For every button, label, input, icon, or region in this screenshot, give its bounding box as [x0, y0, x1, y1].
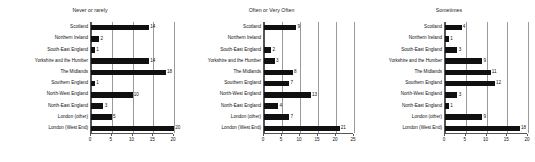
category-label: London (other) [58, 115, 88, 120]
category-label: North-West England [401, 92, 442, 97]
x-tick-mark [132, 134, 133, 136]
x-tick-label: 0 [89, 137, 92, 142]
chart-row: Southern England [0, 78, 180, 89]
category-label: Yorkshire and the Humber [35, 59, 88, 64]
category-label: North-West England [47, 92, 88, 97]
category-label: North-East England [402, 104, 442, 109]
x-tick-label: 20 [170, 137, 175, 142]
x-tick-label: 20 [332, 137, 337, 142]
x-tick-label: 10 [483, 137, 488, 142]
chart-row: London (other) [180, 112, 363, 123]
category-label: Scotland [70, 25, 88, 30]
category-label: London (West End) [49, 126, 89, 131]
chart-row: London (West End) [363, 123, 535, 134]
x-tick-label: 10 [129, 137, 134, 142]
category-label: Northern Ireland [228, 36, 261, 41]
plot-region: 142114181103520ScotlandNorthern IrelandS… [0, 0, 180, 162]
category-label: Southern England [405, 81, 442, 86]
category-label: North-East England [48, 104, 88, 109]
x-tick-label: 5 [109, 137, 112, 142]
x-tick-mark [353, 134, 354, 136]
chart-figure: Never or rarely 142114181103520ScotlandN… [0, 0, 535, 162]
x-tick-label: 10 [296, 137, 301, 142]
category-label: The Midlands [233, 70, 261, 75]
x-tick-mark [173, 134, 174, 136]
category-label: South-East England [401, 48, 442, 53]
chart-row: Scotland [0, 22, 180, 33]
category-axis: ScotlandNorthern IrelandSouth-East Engla… [180, 22, 363, 134]
category-label: London (West End) [403, 126, 443, 131]
x-tick-label: 0 [262, 137, 265, 142]
chart-row: Northern Ireland [363, 33, 535, 44]
category-label: Southern England [51, 81, 88, 86]
x-tick-mark [263, 134, 264, 136]
category-label: South-East England [47, 48, 88, 53]
chart-panel-never-or-rarely: Never or rarely 142114181103520ScotlandN… [0, 0, 180, 162]
chart-panel-often-or-very-often: Often or Very Often 92387134721ScotlandN… [180, 0, 363, 162]
category-label: Northern Ireland [55, 36, 88, 41]
x-tick-mark [527, 134, 528, 136]
x-tick-mark [152, 134, 153, 136]
chart-row: The Midlands [180, 67, 363, 78]
chart-row: London (other) [0, 112, 180, 123]
chart-row: London (West End) [0, 123, 180, 134]
chart-row: North-West England [180, 89, 363, 100]
category-label: The Midlands [60, 70, 88, 75]
chart-row: Yorkshire and the Humber [180, 56, 363, 67]
category-label: South-East England [220, 48, 261, 53]
x-tick-mark [317, 134, 318, 136]
x-tick-label: 15 [314, 137, 319, 142]
x-tick-mark [111, 134, 112, 136]
category-label: Scotland [243, 25, 261, 30]
category-label: Yorkshire and the Humber [389, 59, 442, 64]
category-label: London (other) [231, 115, 261, 120]
chart-row: Scotland [180, 22, 363, 33]
chart-row: North-East England [363, 100, 535, 111]
x-tick-label: 5 [280, 137, 283, 142]
chart-row: Southern England [363, 78, 535, 89]
x-tick-label: 15 [504, 137, 509, 142]
chart-row: Southern England [180, 78, 363, 89]
category-label: London (West End) [222, 126, 262, 131]
chart-row: Scotland [363, 22, 535, 33]
x-tick-label: 15 [150, 137, 155, 142]
category-label: Southern England [224, 81, 261, 86]
chart-row: North-West England [0, 89, 180, 100]
chart-row: The Midlands [0, 67, 180, 78]
plot-region: 92387134721ScotlandNorthern IrelandSouth… [180, 0, 363, 162]
x-tick-label: 25 [350, 137, 355, 142]
category-label: North-East England [221, 104, 261, 109]
chart-row: Yorkshire and the Humber [363, 56, 535, 67]
chart-row: South-East England [180, 44, 363, 55]
x-tick-mark [444, 134, 445, 136]
plot-region: 4139111231918ScotlandNorthern IrelandSou… [363, 0, 535, 162]
chart-panel-sometimes: Sometimes 4139111231918ScotlandNorthern … [363, 0, 535, 162]
x-tick-mark [506, 134, 507, 136]
category-label: Northern Ireland [409, 36, 442, 41]
category-label: Scotland [424, 25, 442, 30]
x-tick-label: 20 [524, 137, 529, 142]
category-label: North-West England [220, 92, 261, 97]
chart-row: London (West End) [180, 123, 363, 134]
chart-row: South-East England [0, 44, 180, 55]
x-tick-mark [299, 134, 300, 136]
x-tick-label: 0 [443, 137, 446, 142]
chart-row: North-East England [0, 100, 180, 111]
category-axis: ScotlandNorthern IrelandSouth-East Engla… [0, 22, 180, 134]
chart-row: Northern Ireland [0, 33, 180, 44]
x-tick-mark [281, 134, 282, 136]
chart-row: Yorkshire and the Humber [0, 56, 180, 67]
chart-row: North-East England [180, 100, 363, 111]
x-tick-mark [486, 134, 487, 136]
x-tick-label: 5 [463, 137, 466, 142]
chart-row: Northern Ireland [180, 33, 363, 44]
chart-row: The Midlands [363, 67, 535, 78]
category-label: The Midlands [414, 70, 442, 75]
chart-row: South-East England [363, 44, 535, 55]
x-tick-mark [465, 134, 466, 136]
x-tick-mark [90, 134, 91, 136]
chart-row: London (other) [363, 112, 535, 123]
category-label: London (other) [412, 115, 442, 120]
category-label: Yorkshire and the Humber [208, 59, 261, 64]
chart-row: North-West England [363, 89, 535, 100]
